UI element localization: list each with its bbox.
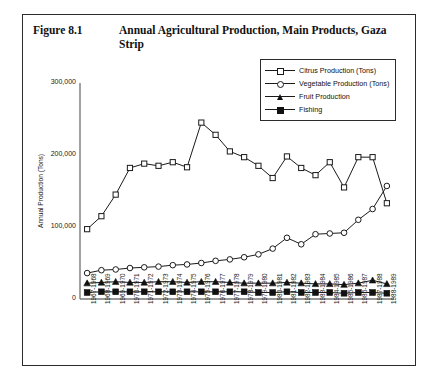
data-point-marker bbox=[170, 160, 175, 165]
data-point-marker bbox=[341, 185, 346, 190]
data-point-marker bbox=[213, 289, 219, 295]
data-point-marker bbox=[284, 289, 290, 295]
x-axis-tick-label: 1982-1983 bbox=[304, 273, 311, 304]
data-point-marker bbox=[370, 206, 376, 212]
x-axis-tick-label: 1972-1973 bbox=[162, 273, 169, 304]
data-point-marker bbox=[284, 235, 290, 241]
x-axis-tick-label: 1983-1984 bbox=[319, 273, 326, 304]
data-point-marker bbox=[156, 163, 161, 168]
x-axis-tick-label: 1984-1985 bbox=[333, 273, 340, 304]
data-point-marker bbox=[170, 262, 176, 268]
x-axis-tick-label: 1973-1974 bbox=[176, 273, 183, 304]
x-axis-tick-label: 1974-1975 bbox=[190, 273, 197, 304]
data-point-marker bbox=[384, 183, 390, 189]
data-point-marker bbox=[184, 262, 190, 268]
data-point-marker bbox=[327, 290, 333, 296]
data-point-marker bbox=[170, 289, 176, 295]
data-point-marker bbox=[313, 173, 318, 178]
legend-marker bbox=[277, 81, 284, 88]
data-point-marker bbox=[299, 165, 304, 170]
x-axis-tick-label: 1977-1978 bbox=[233, 273, 240, 304]
legend-marker bbox=[277, 94, 283, 100]
data-point-marker bbox=[113, 192, 118, 197]
data-point-marker bbox=[242, 155, 247, 160]
data-point-marker bbox=[327, 160, 332, 165]
x-axis-tick-label: 1967-1968 bbox=[90, 273, 97, 304]
data-point-marker bbox=[156, 264, 162, 270]
data-point-marker bbox=[370, 290, 376, 296]
data-point-marker bbox=[384, 201, 389, 206]
data-point-marker bbox=[213, 258, 219, 264]
x-axis-tick-label: 1985-1986 bbox=[347, 273, 354, 304]
data-point-marker bbox=[127, 265, 133, 271]
data-point-marker bbox=[284, 154, 289, 159]
data-point-marker bbox=[256, 252, 262, 258]
x-axis-tick-label: 1975-1976 bbox=[204, 273, 211, 304]
x-axis-tick-label: 1971-1972 bbox=[147, 273, 154, 304]
data-point-marker bbox=[270, 290, 276, 296]
y-axis-tick-label: 0 bbox=[24, 294, 76, 301]
y-axis-title: Annual Production (Tons) bbox=[37, 154, 44, 228]
x-axis-tick-label: 1976-1977 bbox=[219, 273, 226, 304]
x-axis-tick-label: 1969-1970 bbox=[119, 273, 126, 304]
legend-item[interactable]: Citrus Production (Tons) bbox=[265, 64, 389, 77]
data-point-marker bbox=[85, 227, 90, 232]
data-point-marker bbox=[241, 254, 247, 260]
data-point-marker bbox=[256, 163, 261, 168]
data-point-marker bbox=[113, 289, 119, 295]
data-point-marker bbox=[199, 260, 205, 266]
y-axis-tick-label: 200,000 bbox=[24, 150, 76, 157]
legend-label: Citrus Production (Tons) bbox=[299, 66, 376, 75]
x-axis-tick-label: 1970-1971 bbox=[133, 273, 140, 304]
legend-item[interactable]: Vegetable Production (Tons) bbox=[265, 77, 389, 90]
data-point-marker bbox=[270, 246, 276, 252]
data-point-marker bbox=[313, 231, 319, 237]
x-axis-tick-label: 1986-1987 bbox=[361, 273, 368, 304]
filled-triangle-marker bbox=[265, 91, 295, 102]
x-axis-tick-label: 1980-1981 bbox=[276, 273, 283, 304]
data-point-marker bbox=[356, 155, 361, 160]
legend-item[interactable]: Fishing bbox=[265, 103, 389, 116]
filled-square-marker bbox=[265, 104, 295, 115]
data-point-marker bbox=[199, 120, 204, 125]
data-point-marker bbox=[184, 165, 189, 170]
data-point-marker bbox=[298, 241, 304, 247]
data-point-marker bbox=[370, 155, 375, 160]
data-point-marker bbox=[227, 289, 233, 295]
legend-label: Fishing bbox=[299, 105, 322, 114]
data-point-marker bbox=[142, 161, 147, 166]
data-point-marker bbox=[127, 165, 132, 170]
open-circle-marker bbox=[265, 78, 295, 89]
y-axis-tick-label: 300,000 bbox=[24, 78, 76, 85]
data-point-marker bbox=[270, 175, 275, 180]
data-point-marker bbox=[227, 257, 233, 263]
data-point-marker bbox=[127, 289, 133, 295]
figure-frame: Figure 8.1 Annual Agricultural Productio… bbox=[22, 14, 416, 366]
data-point-marker bbox=[113, 267, 119, 273]
legend-marker bbox=[277, 68, 284, 75]
x-axis-tick-label: 1988-1989 bbox=[390, 273, 397, 304]
data-point-marker bbox=[384, 290, 390, 296]
data-point-marker bbox=[341, 230, 347, 236]
x-axis-tick-label: 1987-1988 bbox=[376, 273, 383, 304]
data-point-marker bbox=[156, 289, 162, 295]
data-point-marker bbox=[327, 231, 333, 237]
chart-legend: Citrus Production (Tons)Vegetable Produc… bbox=[260, 59, 396, 121]
legend-marker bbox=[277, 107, 284, 114]
data-point-marker bbox=[227, 149, 232, 154]
legend-label: Vegetable Production (Tons) bbox=[299, 79, 389, 88]
data-point-marker bbox=[313, 290, 319, 296]
x-axis-tick-label: 1968-1969 bbox=[104, 273, 111, 304]
legend-label: Fruit Production bbox=[299, 92, 350, 101]
legend-item[interactable]: Fruit Production bbox=[265, 90, 389, 103]
data-point-marker bbox=[369, 277, 376, 283]
data-point-marker bbox=[141, 265, 147, 271]
x-axis-tick-label: 1979-1980 bbox=[261, 273, 268, 304]
data-point-marker bbox=[99, 214, 104, 219]
y-axis-tick-label: 100,000 bbox=[24, 222, 76, 229]
open-square-marker bbox=[265, 65, 295, 76]
data-point-marker bbox=[213, 132, 218, 137]
x-axis-tick-label: 1978-1979 bbox=[247, 273, 254, 304]
chart-plot-area: 0100,000200,000300,000Annual Production … bbox=[23, 15, 417, 367]
x-axis-tick-label: 1981-1982 bbox=[290, 273, 297, 304]
